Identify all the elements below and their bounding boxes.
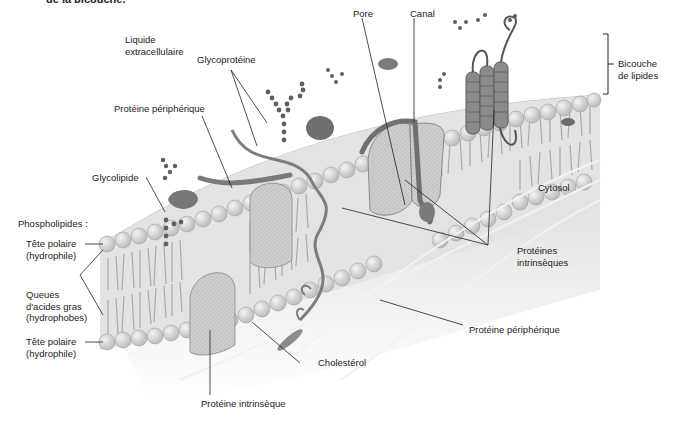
label-phospholipides: Phospholipides : (18, 218, 88, 230)
label-proteine-intrinseque: Protéine intrinsèque (201, 398, 286, 410)
peripheral-protein-blob (306, 116, 334, 140)
label-queues-acides-gras: Queues d'acides gras (hydrophobes) (26, 289, 87, 324)
label-glycoproteine: Glycoprotéine (197, 54, 256, 66)
integral-protein-left (190, 273, 235, 355)
label-cholesterol: Cholestérol (318, 357, 366, 369)
label-liquide-extracellulaire: Liquide extracellulaire (125, 34, 184, 57)
label-tete-polaire-bottom: Tête polaire (hydrophile) (26, 336, 76, 359)
bilayer-bracket (603, 34, 614, 94)
label-canal: Canal (410, 8, 435, 20)
label-pore: Pore (353, 8, 373, 20)
label-proteine-peripherique-top: Protéine périphérique (114, 103, 205, 115)
integral-protein-middle (250, 183, 292, 268)
label-glycolipide: Glycolipide (92, 172, 138, 184)
label-proteine-peripherique-bottom: Protéine périphérique (469, 324, 560, 336)
label-proteines-intrinseques: Protéines intrinsèques (517, 245, 568, 268)
label-tete-polaire-top: Tête polaire (hydrophile) (26, 238, 76, 261)
label-cytosol: Cytosol (538, 182, 570, 194)
label-bicouche-de-lipides: Bicouche de lipides (618, 58, 658, 81)
